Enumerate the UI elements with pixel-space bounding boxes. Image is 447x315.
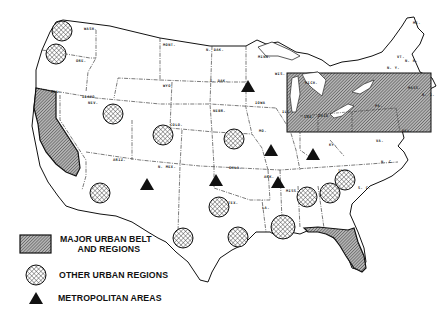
state-label: NEV. — [88, 101, 98, 105]
state-label: R. I. — [422, 93, 435, 97]
urban-region-circle — [46, 44, 66, 64]
state-label: TEX. — [228, 201, 238, 205]
state-label: ARIZ. — [113, 158, 126, 162]
metropolitan-area-triangle-icon — [306, 148, 320, 160]
hatched-rectangle-icon — [19, 234, 52, 254]
state-label: IDAHO — [82, 95, 95, 99]
state-label: ILL. — [282, 110, 292, 114]
urban-region-circle — [224, 129, 244, 149]
state-label: DEL. — [402, 129, 412, 133]
state-label: WIS. — [275, 72, 285, 76]
state-label: KY. — [329, 143, 337, 147]
state-label: N. MEX. — [158, 165, 176, 169]
state-label: VT. — [397, 55, 405, 59]
metropolitan-area-triangle-icon — [264, 144, 278, 156]
legend-label: METROPOLITAN AREAS — [58, 293, 162, 303]
state-label: LA. — [262, 206, 270, 210]
state-label: N. C. — [381, 160, 394, 164]
state-label: NEBR. — [213, 109, 226, 113]
state-label: MISS. — [286, 189, 299, 193]
triangle-icon — [29, 292, 43, 304]
state-label: VA. — [376, 139, 384, 143]
state-label: ORE. — [76, 59, 86, 63]
urban-region-circle — [335, 170, 355, 190]
urban-region-circle — [297, 187, 317, 207]
other-urban-regions — [46, 21, 355, 248]
state-label: MASS. — [408, 86, 421, 90]
legend-label-line2: AND REGIONS — [60, 244, 152, 254]
state-label: MONT. — [163, 43, 176, 47]
urban-region-circle — [52, 21, 72, 41]
florida-urban-belt — [304, 227, 366, 272]
cross-hatched-circle-icon — [25, 264, 47, 286]
state-label: IOWA — [255, 101, 266, 105]
state-label: S. DAK. — [210, 79, 228, 83]
state-label: MO. — [259, 129, 267, 133]
state-label: CAL. — [51, 90, 61, 94]
legend-item-other-urban-regions: OTHER URBAN REGIONS — [25, 264, 178, 286]
urban-region-circle — [153, 125, 173, 145]
metropolitan-area-triangle-icon — [209, 174, 223, 186]
state-label: PA. — [375, 104, 383, 108]
state-label: OKLA. — [229, 166, 242, 170]
state-label: MINN. — [258, 55, 271, 59]
legend-label: OTHER URBAN REGIONS — [59, 270, 168, 280]
state-label: COLO. — [170, 123, 183, 127]
urban-region-circle — [90, 183, 110, 203]
state-label: OHIO — [318, 114, 328, 118]
legend: MAJOR URBAN BELT AND REGIONS OTHER URBAN… — [0, 220, 220, 315]
state-label: MICH. — [305, 81, 318, 85]
urban-region-circle — [271, 215, 295, 239]
state-label: N. DAK. — [206, 48, 224, 52]
legend-item-major-urban-belt: MAJOR URBAN BELT AND REGIONS — [19, 234, 160, 254]
metropolitan-area-triangle-icon — [140, 178, 154, 190]
state-label: WASH. — [84, 27, 97, 31]
urban-region-circle — [228, 227, 248, 247]
state-label: ME. — [413, 21, 421, 25]
state-label: IND. — [304, 115, 314, 119]
california-urban-belt — [34, 88, 80, 176]
state-label: ARK. — [264, 175, 274, 179]
state-label: N. Y. — [387, 66, 400, 70]
state-label: WYO. — [163, 84, 173, 88]
state-label: S. C. — [358, 186, 371, 190]
urban-region-circle — [103, 104, 123, 124]
legend-item-metropolitan-areas: METROPOLITAN AREAS — [29, 292, 171, 304]
state-label: N. H. — [405, 59, 418, 63]
urban-region-circle — [209, 197, 229, 217]
